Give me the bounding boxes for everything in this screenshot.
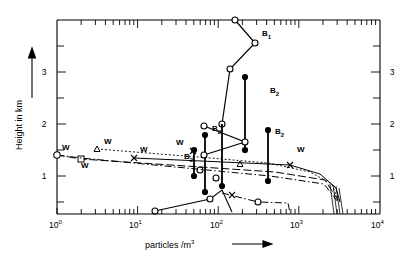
y-axis-title: Height in km: [14, 100, 24, 150]
series-B2-bars: [192, 75, 270, 194]
ytick-label-3: 3: [42, 67, 47, 77]
y-axis-title-group: Height in km: [14, 48, 36, 150]
right-axis-ticks: [371, 46, 380, 202]
ytick-label-2: 2: [42, 119, 47, 129]
series-W-solid: [134, 158, 340, 202]
xtick-exp-0: 0: [58, 219, 62, 225]
annotation-B2-c: B2: [275, 127, 285, 138]
annotation-W-2: W: [81, 161, 89, 170]
x-axis-title-group: particles /m3: [145, 239, 272, 250]
xtick-label-0: 100: [49, 219, 62, 230]
xtick-label-2: 102: [210, 219, 223, 230]
annotation-B1: B1: [262, 29, 272, 40]
xtick-label-4: 104: [371, 219, 384, 230]
series-W-dashdot-markers: [54, 152, 60, 158]
series-B1: [222, 20, 255, 124]
xtick-exp-1: 1: [138, 219, 142, 225]
annotation-W-4: W: [140, 145, 148, 154]
series-B2-crosslink: [204, 126, 245, 155]
annotation-W-5: W: [176, 138, 184, 147]
y-tick-labels-left: 3 2 1: [42, 67, 47, 181]
annotation-W-1: W: [62, 143, 70, 152]
y-tick-labels-right: 3 2 1: [390, 67, 395, 181]
series-B1-markers: [219, 17, 258, 127]
figure-container: 100 101 102 103 104 3 2 1 3 2 1 Height i…: [0, 0, 407, 272]
xtick-exp-4: 4: [380, 219, 384, 225]
ytick-right-label-3: 3: [390, 67, 395, 77]
x-axis-arrow-icon: [232, 241, 272, 247]
ytick-right-label-1: 1: [390, 171, 395, 181]
convergence-fan: [330, 184, 343, 214]
x-tick-labels: 100 101 102 103 104: [49, 219, 384, 230]
plot-frame: [57, 20, 380, 214]
annotation-B2-d: B2: [184, 152, 194, 163]
annotation-W-6: W: [297, 145, 305, 154]
annotation-W-3: W: [104, 137, 112, 146]
series-bottom-x-markers: [229, 192, 235, 198]
left-axis-ticks: [57, 46, 66, 202]
xtick-exp-3: 3: [299, 219, 303, 225]
x-axis-title: particles /m3: [145, 239, 195, 250]
top-axis-ticks: [81, 20, 375, 28]
ytick-right-label-2: 2: [390, 119, 395, 129]
series-W-longdash: [57, 155, 338, 200]
annotation-B2-a: B2: [270, 86, 280, 97]
series-W-dashdot: [57, 155, 338, 202]
series-bottom-solid: [155, 190, 232, 212]
xtick-label-3: 103: [290, 219, 303, 230]
y-axis-arrow-icon: [29, 48, 36, 98]
chart-svg: 100 101 102 103 104 3 2 1 3 2 1 Height i…: [0, 0, 407, 272]
ytick-label-1: 1: [42, 171, 47, 181]
xtick-exp-2: 2: [219, 219, 223, 225]
bottom-axis-ticks: [57, 206, 376, 214]
series-bottom-dashdot-markers: [255, 199, 261, 205]
series-W-dotted-markers: [94, 146, 243, 167]
xtick-label-1: 101: [129, 219, 142, 230]
